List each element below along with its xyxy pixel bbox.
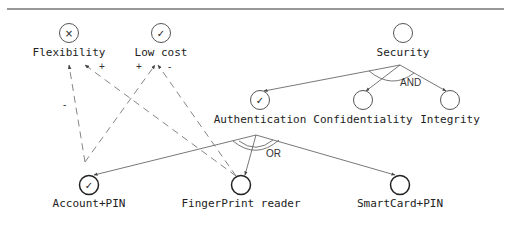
confidentiality-label: Confidentiality <box>313 113 412 126</box>
flexibility-denied-icon: × <box>65 28 73 39</box>
lowcost-check-icon: ✓ <box>157 28 165 39</box>
authentication-label: Authentication <box>214 113 307 126</box>
contrib-accountpin-flexibility <box>69 65 85 162</box>
sign-accountpin-lowcost: + <box>136 61 142 72</box>
sign-fingerprint-flexibility: + <box>99 61 105 72</box>
fingerprint-node[interactable] <box>232 176 251 195</box>
and-label: AND <box>400 77 421 88</box>
authentication-check-icon: ✓ <box>256 95 264 106</box>
accountpin-check-icon: ✓ <box>85 180 93 191</box>
or-label: OR <box>266 148 281 159</box>
or-arc-inner <box>239 140 273 147</box>
sign-accountpin-flexibility: - <box>63 99 66 110</box>
contrib-accountpin-lowcost <box>85 65 155 162</box>
integrity-label: Integrity <box>420 113 480 126</box>
security-label: Security <box>377 46 430 59</box>
flexibility-label: Flexibility <box>33 46 106 59</box>
and-edge-confidentiality <box>366 65 400 91</box>
sign-fingerprint-lowcost: - <box>168 61 171 72</box>
security-node[interactable] <box>394 24 413 43</box>
or-edge-accountpin <box>94 135 256 175</box>
accountpin-label: Account+PIN <box>53 197 126 210</box>
lowcost-label: Low cost <box>135 46 188 59</box>
fingerprint-label: FingerPrint reader <box>181 197 300 210</box>
or-edge-fingerprint <box>245 135 256 175</box>
integrity-node[interactable] <box>441 91 460 110</box>
smartcard-node[interactable] <box>391 176 410 195</box>
confidentiality-node[interactable] <box>354 91 373 110</box>
smartcard-label: SmartCard+PIN <box>357 197 443 210</box>
